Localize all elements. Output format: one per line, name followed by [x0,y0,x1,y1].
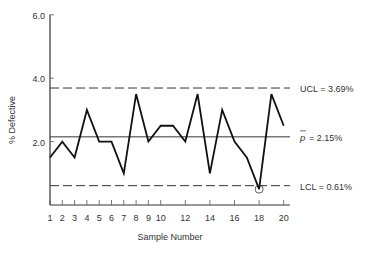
x-tick-label: 7 [121,213,126,223]
x-tick-label: 16 [229,213,239,223]
axes: 2.04.06.0123456789101214161820 [32,11,290,223]
x-tick-label: 2 [60,213,65,223]
y-tick-label: 2.0 [32,138,45,148]
x-tick-label: 12 [180,213,190,223]
x-tick-label: 14 [205,213,215,223]
pbar-symbol: p [299,132,305,143]
y-axis-title: % Defective [7,96,17,144]
data-series [50,94,284,193]
reference-lines: UCL = 3.69%p= 2.15%LCL = 0.61% [50,84,353,192]
control-chart: 2.04.06.0123456789101214161820 UCL = 3.6… [0,0,378,253]
y-tick-label: 6.0 [32,11,45,21]
x-tick-label: 6 [109,213,114,223]
x-tick-label: 20 [279,213,289,223]
ucl-label: UCL = 3.69% [300,84,353,94]
x-tick-label: 3 [72,213,77,223]
x-tick-label: 10 [156,213,166,223]
x-tick-label: 18 [254,213,264,223]
defect-rate-line [50,94,284,189]
x-tick-label: 1 [47,213,52,223]
pbar-label: = 2.15% [309,133,342,143]
x-tick-label: 5 [97,213,102,223]
y-tick-label: 4.0 [32,74,45,84]
x-axis-title: Sample Number [137,232,202,242]
x-tick-label: 8 [134,213,139,223]
axis-labels: Sample Number% Defective [7,96,203,242]
x-tick-label: 4 [84,213,89,223]
x-tick-label: 9 [146,213,151,223]
lcl-label: LCL = 0.61% [300,182,352,192]
